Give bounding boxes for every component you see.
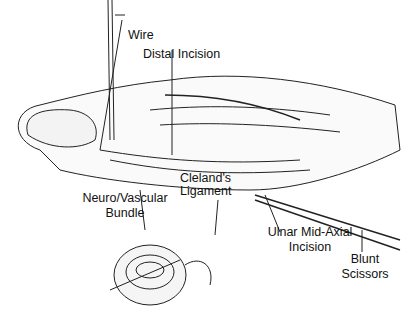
label-distal-incision: Distal Incision [143,47,220,62]
label-neurovascular: Neuro/Vascular Bundle [74,191,176,221]
label-cleland-line2: Ligament [180,185,231,198]
label-neurovascular-line2: Bundle [74,206,176,221]
label-blunt-scissors: Blunt Scissors [340,252,390,282]
label-scissors-line1: Blunt [340,252,390,267]
label-scissors-line2: Scissors [340,267,390,282]
label-ulnar-midaxial-incision: Ulnar Mid-Axial Incision [255,225,365,255]
label-wire: Wire [128,28,154,43]
label-clelands-ligament: Cleland's Ligament [180,172,231,198]
label-ulnar-line1: Ulnar Mid-Axial [255,225,365,240]
label-neurovascular-line1: Neuro/Vascular [74,191,176,206]
